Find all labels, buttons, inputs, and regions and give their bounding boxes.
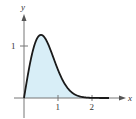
x-tick-label-2: 2 bbox=[90, 102, 95, 112]
y-axis-label: y bbox=[20, 2, 25, 12]
x-tick-label-1: 1 bbox=[56, 102, 61, 112]
x-axis-arrow-icon bbox=[119, 96, 126, 101]
y-tick-label-1: 1 bbox=[11, 41, 16, 51]
y-axis-arrow-icon bbox=[22, 14, 27, 21]
chart: 1 2 1 x y bbox=[0, 0, 136, 119]
x-axis-label: x bbox=[127, 93, 132, 103]
